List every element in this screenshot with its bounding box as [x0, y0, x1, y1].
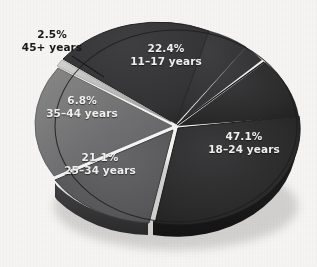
pie-wall-left-rim: [55, 183, 57, 200]
pie-chart-figure: 22.4% 11–17 years 47.1% 18–24 years 21.1…: [0, 0, 317, 267]
pie-chart-canvas: [0, 0, 317, 267]
